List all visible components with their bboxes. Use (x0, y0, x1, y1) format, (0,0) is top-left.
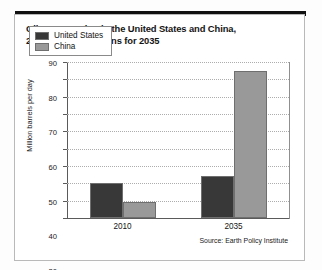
y-tick-90: 90 (63, 62, 67, 63)
x-axis-label-2010: 2010 (113, 222, 131, 231)
y-tick-10: 10 (63, 201, 67, 202)
legend-item-china: China (35, 42, 103, 51)
y-tick-label-60: 60 (49, 163, 57, 172)
y-tick-80: 80 (63, 79, 67, 80)
bar-china-2010 (123, 202, 156, 218)
legend-label-china: China (54, 42, 75, 51)
y-tick-60: 60 (63, 114, 67, 115)
x-axis-line (67, 218, 290, 219)
bar-united-states-2010 (90, 183, 123, 218)
legend-swatch-china (35, 43, 49, 51)
y-axis-title: Million barrels per day (25, 56, 34, 176)
bar-china-2035 (234, 71, 267, 218)
y-tick-label-80: 80 (49, 93, 57, 102)
y-tick-label-30: 30 (49, 267, 57, 270)
y-tick-0: 0 (63, 218, 67, 219)
source-note: Source: Earth Policy Institute (200, 237, 288, 244)
y-tick-40: 40 (63, 149, 67, 150)
y-tick-label-70: 70 (49, 128, 57, 137)
y-tick-label-40: 40 (49, 232, 57, 241)
legend-swatch-united-states (35, 32, 49, 40)
chart-card: Oil consumption in the United States and… (14, 14, 305, 261)
chart-legend: United States China (29, 26, 112, 56)
y-tick-label-90: 90 (49, 59, 57, 68)
legend-label-united-states: United States (54, 31, 103, 40)
plot-area: 9080706050403020100 (67, 62, 289, 218)
gridline-90 (67, 62, 289, 63)
plot-right-border (289, 62, 290, 219)
y-tick-30: 30 (63, 166, 67, 167)
y-tick-50: 50 (63, 131, 67, 132)
legend-item-united-states: United States (35, 31, 103, 40)
y-tick-label-50: 50 (49, 197, 57, 206)
bar-united-states-2035 (201, 176, 234, 218)
x-axis-label-2035: 2035 (224, 222, 242, 231)
y-tick-20: 20 (63, 183, 67, 184)
y-tick-70: 70 (63, 97, 67, 98)
plot-area-wrapper: Million barrels per day 9080706050403020… (15, 15, 304, 260)
page-root: Oil consumption in the United States and… (0, 0, 322, 270)
